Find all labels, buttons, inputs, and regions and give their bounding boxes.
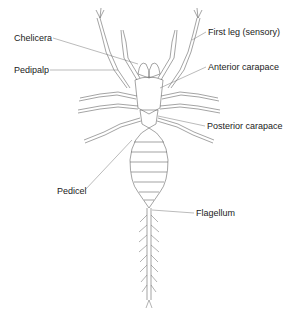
label-pedicel: Pedicel <box>57 186 87 196</box>
label-first-leg: First leg (sensory) <box>208 27 280 37</box>
whip-scorpion-drawing <box>0 0 299 324</box>
posterior-carapace-shape <box>140 110 158 128</box>
label-posterior-carapace: Posterior carapace <box>207 121 283 131</box>
flagellum-shape <box>147 208 151 300</box>
abdomen-shape <box>130 128 168 208</box>
label-pedipalp: Pedipalp <box>14 65 49 75</box>
left-first-leg <box>100 18 130 88</box>
chelicera-shape <box>138 63 149 78</box>
anterior-carapace-shape <box>135 77 163 114</box>
label-chelicera: Chelicera <box>14 33 52 43</box>
label-anterior-carapace: Anterior carapace <box>208 62 279 72</box>
label-flagellum: Flagellum <box>196 208 235 218</box>
